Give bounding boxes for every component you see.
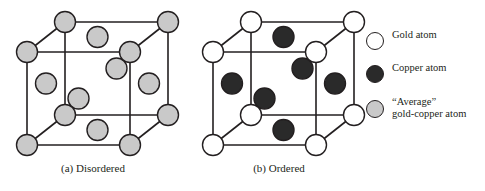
gold-atom-swatch-icon: [366, 32, 384, 50]
corner-atom: [203, 42, 224, 63]
face-center-atom: [87, 27, 108, 48]
face-center-atom: [87, 120, 108, 141]
legend: Gold atom Copper atom “Average” gold-cop…: [366, 30, 485, 129]
corner-atom: [241, 12, 262, 33]
figure-canvas: (a) Disordered (b) Ordered Gold atom Cop…: [0, 0, 485, 191]
face-center-atom: [325, 73, 346, 94]
legend-label-copper: Copper atom: [392, 62, 447, 74]
copper-atom-swatch-icon: [366, 65, 384, 83]
face-center-atom: [273, 27, 294, 48]
corner-atom: [241, 105, 262, 126]
legend-label-gold: Gold atom: [392, 29, 437, 41]
corner-atom: [158, 12, 179, 33]
corner-atom: [306, 42, 327, 63]
face-center-atom: [222, 73, 243, 94]
corner-atom: [306, 135, 327, 156]
corner-atom: [17, 135, 38, 156]
panel-b-caption: (b) Ordered: [186, 162, 372, 174]
corner-atom: [17, 42, 38, 63]
face-center-atom: [139, 73, 160, 94]
legend-item-copper: Copper atom: [366, 63, 485, 96]
corner-atom: [120, 42, 141, 63]
legend-item-gold: Gold atom: [366, 30, 485, 63]
unit-cell-ordered: [203, 12, 365, 156]
face-center-atom: [273, 120, 294, 141]
corner-atom: [344, 12, 365, 33]
corner-atom: [203, 135, 224, 156]
corner-atom: [120, 135, 141, 156]
panel-a-caption: (a) Disordered: [0, 162, 186, 174]
average-atom-swatch-icon: [366, 100, 384, 118]
corner-atom: [55, 105, 76, 126]
legend-label-average: “Average” gold-copper atom: [392, 96, 466, 120]
corner-atom: [55, 12, 76, 33]
unit-cell-disordered: [17, 12, 179, 156]
face-center-atom: [36, 73, 57, 94]
legend-item-average: “Average” gold-copper atom: [366, 96, 485, 129]
corner-atom: [344, 105, 365, 126]
corner-atom: [158, 105, 179, 126]
